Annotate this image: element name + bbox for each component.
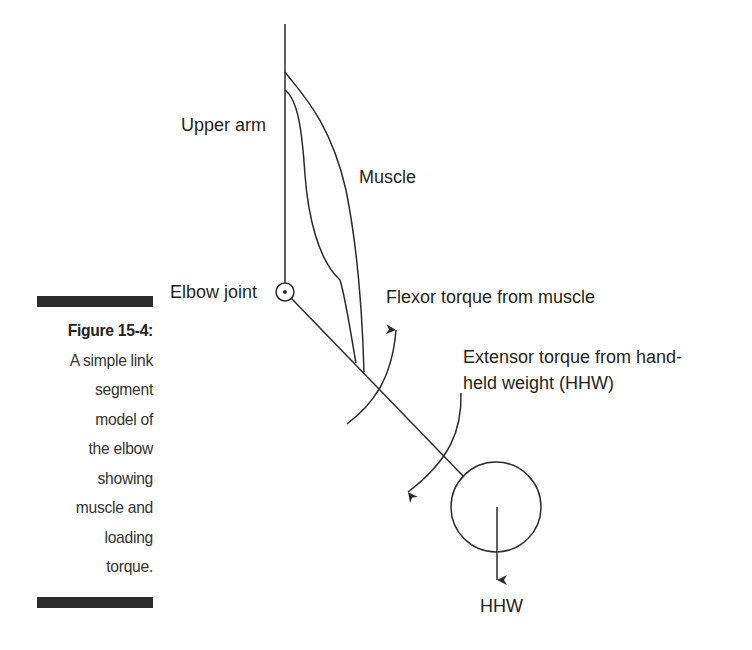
muscle-inner-outline (285, 90, 356, 363)
elbow-joint-label: Elbow joint (170, 282, 257, 302)
extensor-torque-arrow (408, 393, 461, 492)
muscle-outer-outline (285, 72, 364, 372)
elbow-link-segment-diagram: Upper arm Muscle Elbow joint Flexor torq… (0, 0, 752, 650)
hand-held-weight-circle (451, 462, 541, 552)
forearm-segment (291, 298, 464, 477)
upper-arm-label: Upper arm (181, 115, 266, 135)
muscle-label: Muscle (359, 167, 416, 187)
extensor-torque-label-line2: held weight (HHW) (463, 373, 614, 393)
flexor-torque-arrow (347, 330, 396, 424)
flexor-torque-label: Flexor torque from muscle (386, 287, 595, 307)
hhw-label: HHW (480, 596, 523, 616)
extensor-torque-label-line1: Extensor torque from hand- (463, 347, 682, 367)
elbow-joint-center-dot (283, 290, 287, 294)
